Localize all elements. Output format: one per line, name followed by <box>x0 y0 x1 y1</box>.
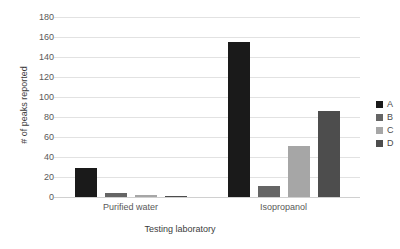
bar-chart: # of peaks reported 02040608010012014016… <box>0 0 400 249</box>
bar-d-isopropanol <box>318 111 340 197</box>
bar-b-purified-water <box>105 193 127 197</box>
legend-item-c[interactable]: C <box>376 124 394 137</box>
gridline <box>54 97 360 98</box>
y-axis-tick-label: 80 <box>14 113 54 122</box>
bar-a-purified-water <box>75 168 97 197</box>
y-axis-tick-label: 140 <box>14 53 54 62</box>
y-axis-tick-label: 100 <box>14 93 54 102</box>
legend-swatch-icon <box>376 114 383 121</box>
y-axis-tick-label: 0 <box>14 193 54 202</box>
bar-b-isopropanol <box>258 186 280 197</box>
bar-c-purified-water <box>135 195 157 197</box>
y-axis-tick-label: 60 <box>14 133 54 142</box>
bar-a-isopropanol <box>228 42 250 197</box>
legend-label: A <box>387 100 393 109</box>
gridline <box>54 177 360 178</box>
x-axis-title: Testing laboratory <box>0 224 360 234</box>
legend-label: B <box>387 113 393 122</box>
gridline <box>54 57 360 58</box>
bar-d-purified-water <box>165 196 187 197</box>
gridline <box>54 77 360 78</box>
y-axis-tick-label: 180 <box>14 13 54 22</box>
bar-c-isopropanol <box>288 146 310 197</box>
gridline <box>54 137 360 138</box>
gridline <box>54 197 360 198</box>
gridline <box>54 17 360 18</box>
plot-area <box>54 17 360 197</box>
y-axis-tick-label: 40 <box>14 153 54 162</box>
legend-item-d[interactable]: D <box>376 137 394 150</box>
legend-label: C <box>387 126 394 135</box>
legend-swatch-icon <box>376 101 383 108</box>
legend-swatch-icon <box>376 127 383 134</box>
legend-item-b[interactable]: B <box>376 111 394 124</box>
legend: ABCD <box>376 98 394 150</box>
gridline <box>54 117 360 118</box>
legend-item-a[interactable]: A <box>376 98 394 111</box>
y-axis-tick-label: 120 <box>14 73 54 82</box>
gridline <box>54 37 360 38</box>
y-axis-tick-label: 20 <box>14 173 54 182</box>
x-axis-group-label: Isopropanol <box>224 202 344 212</box>
legend-label: D <box>387 139 394 148</box>
gridline <box>54 157 360 158</box>
x-axis-group-label: Purified water <box>71 202 191 212</box>
y-axis-tick-label: 160 <box>14 33 54 42</box>
legend-swatch-icon <box>376 140 383 147</box>
